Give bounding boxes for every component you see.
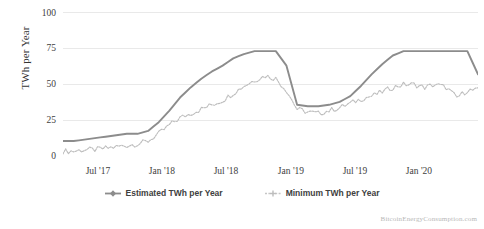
gridlines [63, 12, 478, 157]
source-watermark: BitcoinEnergyConsumption.com [381, 215, 477, 223]
legend-item-estimated[interactable]: Estimated TWh per Year [105, 188, 223, 198]
y-tick-label-25: 25 [30, 116, 56, 126]
chart-container: TWh per Year 100 75 50 25 0 Jul '17 Jan … [0, 0, 484, 229]
x-tick-label-jul-18: Jul '18 [198, 167, 254, 177]
x-tick-label-jan-20: Jan '20 [391, 167, 447, 177]
chart-legend: Estimated TWh per Year Minimum TWh per Y… [0, 188, 484, 198]
legend-label-estimated: Estimated TWh per Year [126, 188, 223, 198]
y-tick-label-100: 100 [30, 9, 56, 19]
diamond-marker-icon [105, 189, 121, 198]
x-tick-label-jul-17: Jul '17 [70, 167, 126, 177]
y-tick-label-75: 75 [30, 44, 56, 54]
series-line-estimated [63, 51, 478, 141]
legend-item-minimum[interactable]: Minimum TWh per Year [265, 188, 380, 198]
y-tick-label-50: 50 [30, 80, 56, 90]
series-line-minimum [63, 75, 478, 154]
plot-svg [63, 12, 478, 157]
legend-label-minimum: Minimum TWh per Year [286, 188, 380, 198]
x-tick-label-jan-19: Jan '19 [263, 167, 319, 177]
x-tick-label-jan-18: Jan '18 [134, 167, 190, 177]
cross-marker-icon [265, 189, 281, 198]
y-axis-title: TWh per Year [19, 3, 31, 113]
x-tick-label-jul-19: Jul '19 [327, 167, 383, 177]
plot-area [63, 12, 478, 157]
y-tick-label-0: 0 [30, 152, 56, 162]
